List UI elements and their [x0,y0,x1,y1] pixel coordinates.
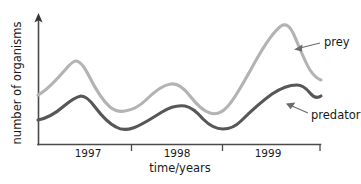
series-label-prey: prey [324,35,350,49]
x-tick-label-1998: 1998 [164,147,191,159]
x-tick-label-1999: 1999 [255,147,282,159]
x-axis-title: time/years [149,161,211,175]
predator-leader-arrow-icon [286,103,295,110]
prey-leader-line [300,43,320,48]
chart-canvas: number of organisms 1997 1998 1999 time/… [0,0,361,184]
predator-leader-line [292,106,308,113]
series-group [38,25,321,130]
series-line-prey [38,25,321,114]
axes-group [34,13,320,151]
series-label-predator: predator [311,108,361,122]
x-tick-label-1997: 1997 [75,147,102,159]
predator-prey-chart: number of organisms 1997 1998 1999 time/… [0,0,361,184]
series-line-predator [38,85,321,129]
y-axis-title: number of organisms [10,22,24,145]
text-group: number of organisms 1997 1998 1999 time/… [10,22,361,175]
